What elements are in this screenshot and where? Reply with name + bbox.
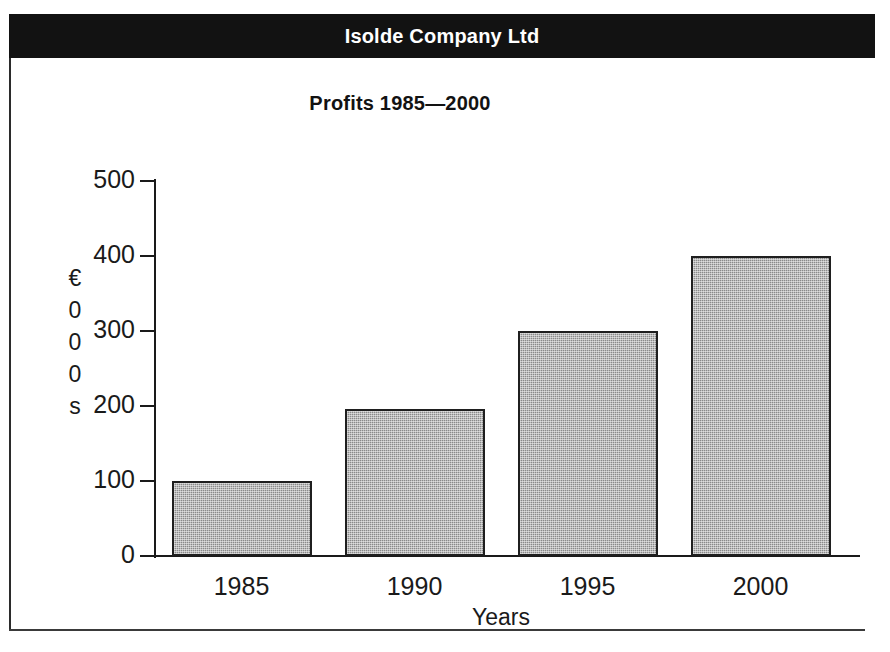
bar-1995 <box>518 331 658 556</box>
y-axis-title-char: 0 <box>55 294 95 326</box>
y-axis-line <box>154 179 156 558</box>
x-axis-title: Years <box>416 604 586 631</box>
y-axis-tick <box>140 480 155 482</box>
bar-2000 <box>691 256 831 556</box>
x-axis-label-2000: 2000 <box>676 572 846 601</box>
y-axis-tick <box>140 330 155 332</box>
bar-1990 <box>345 409 485 556</box>
chart-page: Isolde Company Ltd Profits 1985—2000 010… <box>0 0 890 652</box>
y-axis-title-char: 0 <box>55 326 95 358</box>
y-axis-tick <box>140 180 155 182</box>
y-axis-tick-label: 0 <box>35 542 135 567</box>
x-axis-label-1985: 1985 <box>157 572 327 601</box>
y-axis-tick <box>140 255 155 257</box>
bar-1985 <box>172 481 312 556</box>
y-axis-tick <box>140 405 155 407</box>
y-axis-tick-label: 500 <box>35 167 135 192</box>
plot-area: 0100200300400500 1985199019952000 €000s … <box>0 0 890 652</box>
y-axis-title-char: s <box>55 390 95 422</box>
y-axis-tick <box>140 555 155 557</box>
x-axis-label-1995: 1995 <box>503 572 673 601</box>
y-axis-title: €000s <box>55 262 95 422</box>
y-axis-title-char: 0 <box>55 358 95 390</box>
y-axis-tick-label: 100 <box>35 467 135 492</box>
y-axis-title-char: € <box>55 262 95 294</box>
x-axis-label-1990: 1990 <box>330 572 500 601</box>
